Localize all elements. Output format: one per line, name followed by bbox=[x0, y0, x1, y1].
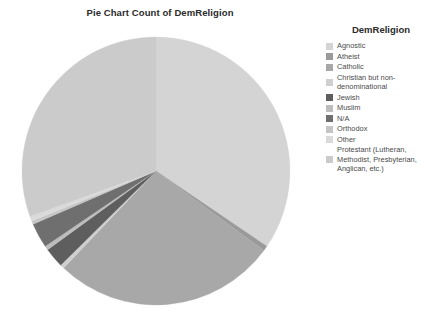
legend-swatch-icon bbox=[326, 156, 333, 163]
legend-swatch-icon bbox=[326, 53, 333, 60]
legend-item[interactable]: Catholic bbox=[326, 62, 442, 72]
legend-title: DemReligion bbox=[326, 24, 442, 35]
legend: DemReligion AgnosticAtheistCatholicChris… bbox=[326, 24, 442, 175]
pie-chart bbox=[0, 0, 320, 333]
legend-item-label: Jewish bbox=[337, 93, 360, 103]
legend-item[interactable]: Muslim bbox=[326, 103, 442, 113]
legend-item-label: Catholic bbox=[337, 62, 364, 72]
legend-swatch-icon bbox=[326, 64, 333, 71]
legend-swatch-icon bbox=[326, 94, 333, 101]
legend-swatch-icon bbox=[326, 126, 333, 133]
legend-swatch-icon bbox=[326, 79, 333, 86]
legend-swatch-icon bbox=[326, 115, 333, 122]
pie-chart-svg bbox=[0, 0, 320, 333]
legend-item-label: Agnostic bbox=[337, 41, 365, 51]
legend-item-label: Other bbox=[337, 135, 355, 145]
pie-slice-group bbox=[22, 37, 290, 305]
legend-item[interactable]: Atheist bbox=[326, 52, 442, 62]
legend-item[interactable]: N/A bbox=[326, 114, 442, 124]
legend-swatch-icon bbox=[326, 43, 333, 50]
legend-item[interactable]: Other bbox=[326, 135, 442, 145]
legend-item-label: Christian but non-denominational bbox=[337, 73, 442, 92]
legend-item[interactable]: Agnostic bbox=[326, 41, 442, 51]
legend-item[interactable]: Christian but non-denominational bbox=[326, 73, 442, 92]
legend-item-list: AgnosticAtheistCatholicChristian but non… bbox=[326, 41, 442, 174]
legend-item-label: Atheist bbox=[337, 52, 360, 62]
legend-item[interactable]: Orthodox bbox=[326, 124, 442, 134]
legend-swatch-icon bbox=[326, 105, 333, 112]
legend-item-label: Protestant (Lutheran, Methodist, Presbyt… bbox=[337, 145, 442, 174]
legend-item[interactable]: Protestant (Lutheran, Methodist, Presbyt… bbox=[326, 145, 442, 174]
legend-item[interactable]: Jewish bbox=[326, 93, 442, 103]
legend-item-label: Muslim bbox=[337, 103, 360, 113]
legend-swatch-icon bbox=[326, 136, 333, 143]
legend-item-label: Orthodox bbox=[337, 124, 367, 134]
legend-item-label: N/A bbox=[337, 114, 349, 124]
